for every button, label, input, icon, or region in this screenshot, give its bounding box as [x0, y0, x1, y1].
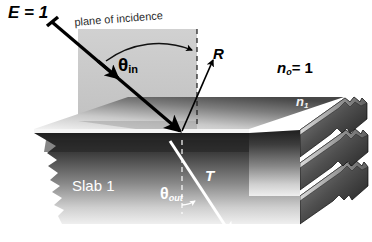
refraction-diagram — [0, 0, 372, 242]
slab-top-front-edge — [34, 129, 249, 133]
slab-front-right-extension — [249, 130, 300, 196]
figure-canvas: E = 1 plane of incidence θin R no= 1 n1 … — [0, 0, 372, 242]
slab-stack-layers — [300, 97, 368, 224]
slab-front-shadow-band — [44, 140, 249, 152]
